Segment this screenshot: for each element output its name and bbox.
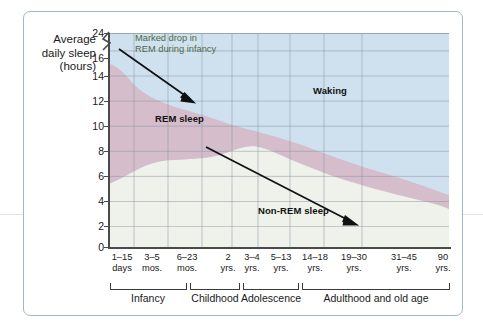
x-tick-label-7: 19–30 yrs. bbox=[341, 252, 367, 274]
x-tick-2-line-1: 6–23 bbox=[177, 252, 198, 262]
x-tick-label-9: 90 yrs. bbox=[436, 252, 451, 274]
x-tick-label-2: 6–23 mos. bbox=[177, 252, 198, 274]
stage-label-childhood: Childhood bbox=[191, 292, 238, 304]
x-tick-label-3: 2 yrs. bbox=[221, 252, 236, 274]
x-tick-5-line-1: 5–13 bbox=[271, 252, 292, 262]
annotation-line-2: REM during infancy bbox=[135, 44, 216, 55]
x-axis-line bbox=[108, 247, 451, 249]
stage-label-adulthood: Adulthood and old age bbox=[323, 292, 428, 304]
y-tick-mark-14 bbox=[104, 76, 109, 77]
y-axis-tick-labels: 24 16 14 12 10 8 6 4 2 0 bbox=[78, 26, 104, 256]
x-tick-9-line-1: 90 bbox=[438, 252, 448, 262]
x-tick-2-line-2: mos. bbox=[177, 263, 198, 274]
x-axis-tick-labels: 1–15 days 3–5 mos. 6–23 mos. 2 yrs. 3–4 … bbox=[0, 252, 483, 276]
y-tick-mark-0 bbox=[104, 247, 109, 248]
y-tick-mark-12 bbox=[104, 101, 109, 102]
x-tick-3-line-2: yrs. bbox=[221, 263, 236, 274]
y-tick-mark-2 bbox=[104, 226, 109, 227]
life-stage-brackets: Infancy Childhood Adolescence Adulthood … bbox=[0, 283, 483, 317]
x-tick-0-line-2: days bbox=[112, 263, 133, 274]
bracket-adulthood bbox=[302, 283, 450, 290]
stage-label-infancy: Infancy bbox=[131, 292, 165, 304]
x-tick-1-line-2: mos. bbox=[142, 263, 162, 274]
x-tick-8-line-2: yrs. bbox=[391, 263, 417, 274]
y-tick-label-8: 8 bbox=[98, 145, 104, 157]
x-tick-label-6: 14–18 yrs. bbox=[302, 252, 328, 274]
bracket-adolescence bbox=[243, 283, 299, 290]
x-tick-1-line-1: 3–5 bbox=[144, 252, 160, 262]
x-tick-9-line-2: yrs. bbox=[436, 263, 451, 274]
rem-sleep-label: REM sleep bbox=[155, 113, 204, 124]
x-tick-8-line-1: 31–45 bbox=[391, 252, 417, 262]
bracket-childhood bbox=[190, 283, 240, 290]
annotation-line-1: Marked drop in bbox=[135, 33, 197, 43]
y-axis-break-icon bbox=[101, 31, 115, 53]
y-tick-mark-4 bbox=[104, 201, 109, 202]
waking-label: Waking bbox=[313, 85, 347, 96]
x-tick-label-1: 3–5 mos. bbox=[142, 252, 162, 274]
x-tick-4-line-2: yrs. bbox=[244, 263, 260, 274]
x-tick-6-line-1: 14–18 bbox=[302, 252, 328, 262]
x-tick-0-line-1: 1–15 bbox=[112, 252, 133, 262]
y-tick-label-4: 4 bbox=[98, 195, 104, 207]
rem-drop-annotation: Marked drop in REM during infancy bbox=[135, 33, 216, 55]
y-tick-label-2: 2 bbox=[98, 220, 104, 232]
x-tick-label-4: 3–4 yrs. bbox=[244, 252, 260, 274]
x-tick-5-line-2: yrs. bbox=[271, 263, 292, 274]
y-tick-mark-6 bbox=[104, 176, 109, 177]
x-tick-6-line-2: yrs. bbox=[302, 263, 328, 274]
stage-label-adolescence: Adolescence bbox=[241, 292, 301, 304]
y-tick-label-10: 10 bbox=[92, 120, 104, 132]
x-tick-label-5: 5–13 yrs. bbox=[271, 252, 292, 274]
y-tick-label-14: 14 bbox=[92, 70, 104, 82]
y-axis-line bbox=[108, 33, 110, 248]
bracket-infancy bbox=[110, 283, 187, 290]
y-tick-mark-8 bbox=[104, 151, 109, 152]
x-tick-7-line-1: 19–30 bbox=[341, 252, 367, 262]
x-tick-7-line-2: yrs. bbox=[341, 263, 367, 274]
x-tick-label-8: 31–45 yrs. bbox=[391, 252, 417, 274]
y-tick-label-16: 16 bbox=[92, 52, 104, 64]
y-tick-label-12: 12 bbox=[92, 95, 104, 107]
non-rem-sleep-label: Non-REM sleep bbox=[258, 205, 329, 216]
x-tick-3-line-1: 2 bbox=[225, 252, 230, 262]
x-tick-label-0: 1–15 days bbox=[112, 252, 133, 274]
y-tick-mark-16 bbox=[104, 58, 109, 59]
x-tick-4-line-1: 3–4 bbox=[244, 252, 260, 262]
y-tick-label-6: 6 bbox=[98, 170, 104, 182]
y-tick-mark-10 bbox=[104, 126, 109, 127]
